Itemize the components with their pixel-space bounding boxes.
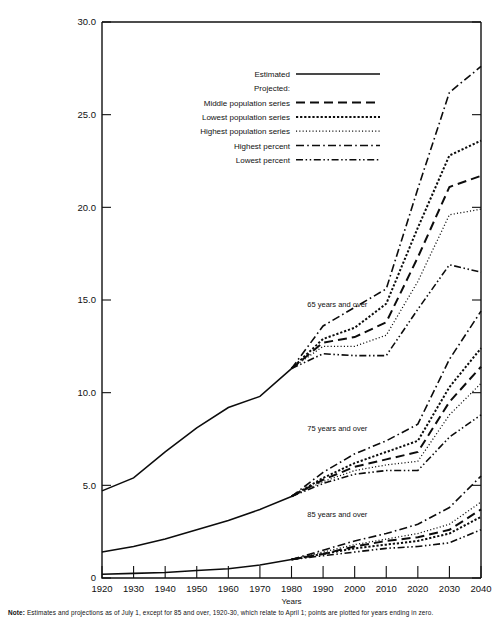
legend-label: Projected: (254, 84, 290, 93)
y-tick-label: 5.0 (83, 480, 96, 491)
data-line (292, 517, 482, 560)
x-tick-label: 1950 (186, 583, 207, 594)
series-group (102, 476, 481, 574)
y-tick-label: 10.0 (78, 387, 97, 398)
y-tick-label: 15.0 (78, 294, 97, 305)
data-line (292, 66, 482, 368)
data-line (292, 311, 482, 496)
legend-label: Highest percent (234, 142, 291, 151)
x-tick-label: 2010 (376, 583, 397, 594)
data-line (292, 209, 482, 368)
population-percent-line-chart: 05.010.015.020.025.030.01920193019401950… (0, 0, 503, 623)
x-tick-label: 2030 (439, 583, 460, 594)
x-tick-label: 2040 (470, 583, 491, 594)
data-series-layer (102, 66, 481, 574)
legend-label: Lowest population series (202, 113, 290, 122)
series-annotation: 65 years and over (307, 300, 368, 309)
x-axis-title: Years (281, 597, 301, 606)
chart-legend: EstimatedProjected:Middle population ser… (200, 70, 380, 165)
x-tick-label: 1970 (249, 583, 270, 594)
x-tick-label: 1980 (281, 583, 302, 594)
series-group (102, 311, 481, 552)
figure-note: Note: Estimates and projections as of Ju… (8, 608, 498, 617)
legend-label: Lowest percent (236, 156, 291, 165)
data-line (292, 176, 482, 369)
x-tick-label: 1920 (91, 583, 112, 594)
x-tick-label: 2020 (407, 583, 428, 594)
data-line (292, 141, 482, 369)
series-annotation: 85 years and over (307, 510, 368, 519)
series-group (102, 66, 481, 490)
x-tick-label: 1990 (313, 583, 334, 594)
data-line (292, 265, 482, 369)
data-line (102, 369, 292, 491)
y-tick-label: 0 (91, 572, 96, 583)
figure-note-body: Estimates and projections as of July 1, … (27, 609, 433, 616)
y-tick-label: 30.0 (78, 16, 97, 27)
axis-titles: Years (281, 597, 301, 606)
legend-label: Estimated (254, 70, 290, 79)
x-tick-label: 1930 (123, 583, 144, 594)
legend-label: Middle population series (204, 99, 290, 108)
data-line (102, 496, 292, 552)
legend-label: Highest population series (200, 127, 290, 136)
x-tick-label: 2000 (344, 583, 365, 594)
x-tick-label: 1940 (155, 583, 176, 594)
series-annotation: 75 years and over (307, 424, 368, 433)
y-tick-label: 25.0 (78, 109, 97, 120)
x-tick-label: 1960 (218, 583, 239, 594)
y-tick-label: 20.0 (78, 202, 97, 213)
chart-figure: 05.010.015.020.025.030.01920193019401950… (0, 0, 503, 623)
figure-note-prefix: Note: (8, 609, 25, 616)
